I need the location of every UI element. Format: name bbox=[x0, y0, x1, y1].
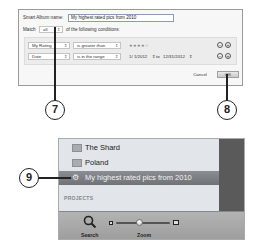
condition-operator-value: is greater than bbox=[77, 43, 105, 48]
match-select[interactable]: all⇕ bbox=[39, 26, 63, 33]
date-to-label: to bbox=[156, 54, 160, 59]
callout-9: 9 bbox=[19, 168, 39, 188]
sidebar-item-label: Poland bbox=[85, 156, 108, 170]
sidebar-item-label: The Shard bbox=[85, 141, 120, 155]
cancel-button[interactable]: Cancel bbox=[189, 71, 211, 78]
match-label: Match bbox=[23, 27, 36, 32]
callout-8: 8 bbox=[217, 100, 237, 120]
match-value: all bbox=[43, 27, 47, 32]
add-condition-button[interactable]: + bbox=[225, 42, 231, 48]
date-stepper-icon[interactable]: ⇕ bbox=[152, 54, 155, 59]
add-condition-button[interactable]: + bbox=[225, 53, 231, 59]
gear-icon: ⚙ bbox=[72, 173, 79, 183]
smart-album-dialog: Smart Album name: My highest rated pics … bbox=[18, 9, 243, 86]
condition-field-value: Date bbox=[32, 54, 41, 59]
content-area bbox=[219, 139, 245, 211]
zoom-label: Zoom bbox=[137, 232, 151, 238]
rating-stars[interactable]: ★★★★☆ bbox=[129, 43, 149, 48]
zoom-slider-track[interactable] bbox=[116, 222, 170, 224]
updown-icon: ⇕ bbox=[64, 54, 67, 59]
remove-condition-button[interactable]: − bbox=[217, 42, 223, 48]
search-button[interactable] bbox=[83, 215, 97, 229]
condition-operator-select[interactable]: is greater than⇕ bbox=[73, 42, 121, 49]
plus-icon: + bbox=[227, 42, 230, 48]
ok-button[interactable]: OK bbox=[217, 71, 239, 78]
updown-icon: ⇕ bbox=[115, 43, 118, 48]
callout-9-line bbox=[39, 177, 71, 179]
date-stepper-icon[interactable]: ⇕ bbox=[189, 54, 192, 59]
sidebar-item-poland[interactable]: Poland bbox=[59, 156, 219, 170]
minus-icon: − bbox=[219, 53, 222, 59]
search-label: Search bbox=[81, 232, 98, 238]
condition-operator-select[interactable]: is in the range⇕ bbox=[73, 53, 121, 60]
remove-condition-button[interactable]: − bbox=[217, 53, 223, 59]
condition-field-value: My Rating bbox=[32, 43, 52, 48]
condition-field-select[interactable]: Date⇕ bbox=[28, 53, 70, 60]
folder-icon bbox=[72, 144, 82, 152]
sidebar-panel: The Shard Poland ⚙ My highest rated pics… bbox=[58, 138, 245, 240]
callout-7-line bbox=[54, 27, 56, 101]
callout-7: 7 bbox=[45, 100, 65, 120]
bottom-toolbar: Search Zoom bbox=[59, 211, 245, 240]
sidebar-item-label: My highest rated pics from 2010 bbox=[85, 171, 192, 185]
condition-operator-value: is in the range bbox=[77, 54, 105, 59]
projects-section-header: PROJECTS bbox=[64, 195, 93, 201]
updown-icon: ⇕ bbox=[115, 54, 118, 59]
sidebar-item-the-shard[interactable]: The Shard bbox=[59, 141, 219, 155]
zoom-large-icon bbox=[173, 220, 179, 225]
updown-icon: ⇕ bbox=[57, 27, 60, 32]
sidebar-source-list: The Shard Poland ⚙ My highest rated pics… bbox=[59, 139, 219, 211]
plus-icon: + bbox=[227, 53, 230, 59]
updown-icon: ⇕ bbox=[64, 43, 67, 48]
date-to-field[interactable]: 12/31/2012 bbox=[163, 54, 185, 59]
folder-icon bbox=[72, 159, 82, 167]
sidebar-item-smart-album[interactable]: ⚙ My highest rated pics from 2010 bbox=[59, 171, 219, 185]
search-icon bbox=[83, 215, 97, 229]
minus-icon: − bbox=[219, 42, 222, 48]
zoom-small-icon bbox=[109, 221, 113, 225]
match-suffix: of the following conditions: bbox=[66, 27, 120, 32]
condition-field-select[interactable]: My Rating⇕ bbox=[28, 42, 70, 49]
album-name-input[interactable]: My highest rated pics from 2010 bbox=[68, 14, 174, 22]
callout-8-line bbox=[226, 74, 228, 101]
album-name-label: Smart Album name: bbox=[23, 15, 63, 20]
zoom-slider-knob[interactable] bbox=[136, 219, 143, 226]
date-from-field[interactable]: 1/ 1/2012 bbox=[129, 54, 147, 59]
